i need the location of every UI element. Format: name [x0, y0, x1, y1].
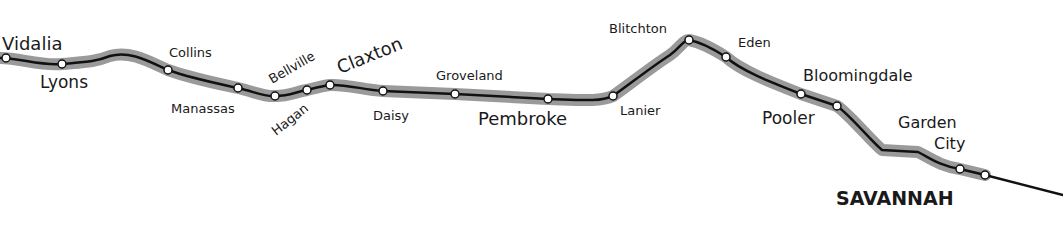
label-lyons: Lyons [40, 72, 88, 92]
label-lanier: Lanier [620, 103, 661, 118]
station-bloomingdale [797, 90, 805, 98]
label-city: City [934, 134, 965, 153]
label-claxton: Claxton [334, 32, 406, 77]
label-daisy: Daisy [373, 108, 409, 123]
route-map: Vidalia Lyons Collins Manassas Bellville… [0, 0, 1063, 235]
label-bellville: Bellville [266, 48, 317, 86]
station-collins [164, 66, 172, 74]
station-pembroke [544, 95, 552, 103]
label-pooler: Pooler [762, 108, 815, 128]
label-pembroke: Pembroke [478, 108, 567, 129]
station-lyons [58, 60, 66, 68]
label-vidalia: Vidalia [2, 33, 62, 54]
label-manassas: Manassas [171, 101, 235, 116]
label-bloomingdale: Bloomingdale [803, 66, 913, 85]
station-hagan [303, 86, 311, 94]
label-blitchton: Blitchton [609, 21, 667, 36]
station-eden [722, 53, 730, 61]
station-bellville [271, 92, 279, 100]
station-claxton [326, 81, 334, 89]
label-garden: Garden [898, 113, 957, 132]
label-eden: Eden [738, 35, 771, 50]
label-collins: Collins [169, 45, 212, 60]
label-savannah: SAVANNAH [836, 187, 954, 209]
station-garden-city [956, 165, 964, 173]
station-pooler [833, 102, 841, 110]
station-daisy [379, 87, 387, 95]
station-blitchton [685, 36, 693, 44]
station-manassas [234, 84, 242, 92]
station-groveland [451, 90, 459, 98]
label-hagan: Hagan [269, 101, 311, 139]
label-groveland: Groveland [436, 68, 503, 83]
station-savannah [981, 171, 989, 179]
station-vidalia [2, 54, 10, 62]
station-lanier [609, 92, 617, 100]
